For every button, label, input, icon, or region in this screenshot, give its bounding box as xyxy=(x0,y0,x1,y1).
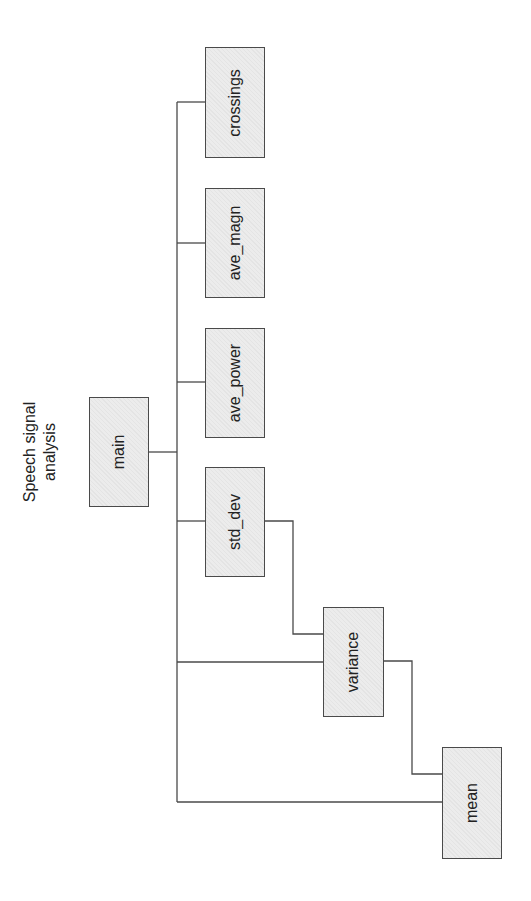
node-label: variance xyxy=(345,632,363,692)
title-line-2: analysis xyxy=(40,402,60,503)
node-mean: mean xyxy=(442,747,502,859)
node-label: ave_power xyxy=(226,344,244,422)
node-std-dev: std_dev xyxy=(205,467,265,577)
node-ave-power: ave_power xyxy=(205,328,265,438)
node-variance: variance xyxy=(323,607,384,717)
node-ave-magn: ave_magn xyxy=(205,188,265,298)
node-label: crossings xyxy=(226,69,244,137)
node-label: mean xyxy=(463,783,481,823)
node-label: main xyxy=(110,435,128,470)
node-label: ave_magn xyxy=(226,206,244,281)
node-main: main xyxy=(89,397,149,507)
node-label: std_dev xyxy=(226,494,244,550)
structure-chart: Speech signal analysis main crossings av… xyxy=(0,0,531,901)
title-line-1: Speech signal xyxy=(20,402,40,503)
node-crossings: crossings xyxy=(205,47,265,158)
diagram-title: Speech signal analysis xyxy=(20,402,60,503)
